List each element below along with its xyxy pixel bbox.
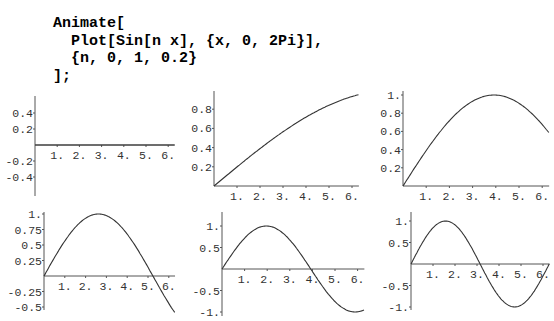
plot-frame-4: 1.2.3.4.5.6.1.0.5-0.5-1. xyxy=(192,212,364,319)
y-tick-label: 0.2 xyxy=(380,162,401,175)
x-tick-label: 1. xyxy=(58,280,72,293)
y-tick-label: 0.5 xyxy=(199,242,220,255)
y-tick-label: 1. xyxy=(206,220,220,233)
x-tick-label: 5. xyxy=(139,149,153,162)
x-tick-label: 3. xyxy=(283,273,297,286)
y-tick-label: -0.5 xyxy=(381,280,409,293)
x-tick-label: 2. xyxy=(260,273,274,286)
x-tick-label: 3. xyxy=(95,149,109,162)
y-tick-label: 0.8 xyxy=(380,107,401,120)
x-tick-label: 1. xyxy=(238,273,252,286)
y-tick-label: -1. xyxy=(199,306,220,319)
y-tick-label: -0.25 xyxy=(7,286,42,299)
y-tick-label: 0.8 xyxy=(191,103,212,116)
x-tick-label: 1. xyxy=(230,190,244,203)
x-tick-label: 6. xyxy=(345,190,359,203)
x-tick-label: 6. xyxy=(162,280,176,293)
x-tick-label: 5. xyxy=(514,268,528,281)
plot-frame-5: 1.2.3.4.5.6.1.0.5-0.5-1. xyxy=(381,212,550,314)
x-tick-label: 1. xyxy=(50,149,64,162)
sine-curve xyxy=(214,95,359,186)
x-tick-label: 4. xyxy=(117,149,131,162)
x-tick-label: 2. xyxy=(253,190,267,203)
x-tick-label: 1. xyxy=(419,190,433,203)
x-tick-label: 6. xyxy=(535,190,549,203)
sine-curve xyxy=(403,95,549,186)
y-tick-label: 0.4 xyxy=(12,107,33,120)
x-tick-label: 3. xyxy=(470,268,484,281)
y-tick-label: 0.4 xyxy=(380,144,401,157)
animation-frames: 1.2.3.4.5.6.0.40.2-0.2-0.41.2.3.4.5.6.0.… xyxy=(0,0,554,321)
y-tick-label: -0.4 xyxy=(5,171,33,184)
x-tick-label: 4. xyxy=(489,190,503,203)
y-tick-label: 0.5 xyxy=(388,237,409,250)
y-tick-label: 0.6 xyxy=(191,122,212,135)
x-tick-label: 2. xyxy=(442,190,456,203)
plot-frame-0: 1.2.3.4.5.6.0.40.2-0.2-0.4 xyxy=(5,96,175,196)
y-tick-label: 1. xyxy=(28,208,42,221)
y-tick-label: -1. xyxy=(388,301,409,314)
x-tick-label: 3. xyxy=(276,190,290,203)
x-tick-label: 5. xyxy=(512,190,526,203)
x-tick-label: 4. xyxy=(120,280,134,293)
x-tick-label: 1. xyxy=(426,268,440,281)
plot-frame-1: 1.2.3.4.5.6.0.80.60.40.2 xyxy=(191,91,359,203)
x-tick-label: 3. xyxy=(466,190,480,203)
y-tick-label: 0.2 xyxy=(12,123,33,136)
x-tick-label: 6. xyxy=(351,273,365,286)
x-tick-label: 2. xyxy=(448,268,462,281)
x-tick-label: 6. xyxy=(536,268,550,281)
y-tick-label: 0.25 xyxy=(14,255,42,268)
x-tick-label: 5. xyxy=(141,280,155,293)
y-tick-label: 0.6 xyxy=(380,125,401,138)
y-tick-label: 1. xyxy=(395,215,409,228)
y-tick-label: 0.5 xyxy=(21,239,42,252)
x-tick-label: 2. xyxy=(72,149,86,162)
plot-frame-2: 1.2.3.4.5.6.1.0.80.60.40.2 xyxy=(380,89,549,203)
x-tick-label: 5. xyxy=(322,190,336,203)
sine-curve xyxy=(44,214,175,312)
x-tick-label: 3. xyxy=(99,280,113,293)
x-tick-label: 2. xyxy=(79,280,93,293)
y-tick-label: 1. xyxy=(387,89,401,102)
y-tick-label: 0.75 xyxy=(14,224,42,237)
y-tick-label: -0.2 xyxy=(5,155,33,168)
plot-frame-3: 1.2.3.4.5.6.1.0.750.50.25-0.25-0.5 xyxy=(7,208,175,314)
y-tick-label: 0.2 xyxy=(191,161,212,174)
x-tick-label: 5. xyxy=(328,273,342,286)
y-tick-label: -0.5 xyxy=(192,285,220,298)
x-tick-label: 6. xyxy=(161,149,175,162)
x-tick-label: 4. xyxy=(492,268,506,281)
y-tick-label: 0.4 xyxy=(191,142,212,155)
x-tick-label: 4. xyxy=(299,190,313,203)
y-tick-label: -0.5 xyxy=(14,301,42,314)
